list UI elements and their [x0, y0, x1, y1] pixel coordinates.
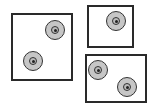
disc-icon [106, 11, 126, 31]
disc-icon [45, 20, 65, 40]
disc-center-dot [32, 60, 35, 63]
disc-icon [117, 77, 137, 97]
box-left [11, 13, 73, 81]
disc-center-dot [115, 20, 118, 23]
disc-center-dot [126, 86, 129, 89]
disc-center-dot [54, 29, 57, 32]
disc-center-dot [97, 69, 100, 72]
disc-icon [23, 51, 43, 71]
disc-icon [88, 60, 108, 80]
